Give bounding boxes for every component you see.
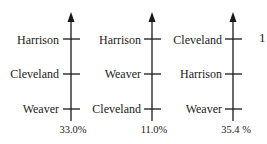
- rank-1-label: Harrison: [0, 33, 59, 47]
- ranking-panel-1: Harrison Cleveland Weaver 33.0%: [0, 0, 90, 144]
- ranking-panel-2: Harrison Weaver Cleveland 11.0%: [85, 0, 175, 144]
- rank-2-label: Cleveland: [0, 67, 59, 81]
- rank-3-label: Weaver: [170, 102, 222, 116]
- rank-1-label: Cleveland: [170, 33, 222, 47]
- percent-label: 11.0%: [134, 124, 174, 136]
- rank-3-label: Cleveland: [83, 102, 141, 116]
- rank-2-label: Weaver: [85, 67, 141, 81]
- rank-1-label: Harrison: [85, 33, 141, 47]
- rank-2-label: Harrison: [170, 67, 222, 81]
- rank-3-label: Weaver: [0, 102, 59, 116]
- trailing-label: 1: [259, 31, 266, 45]
- ranking-panel-3: Cleveland Harrison Weaver 35.4 %: [170, 0, 267, 144]
- percent-label: 35.4 %: [216, 124, 256, 136]
